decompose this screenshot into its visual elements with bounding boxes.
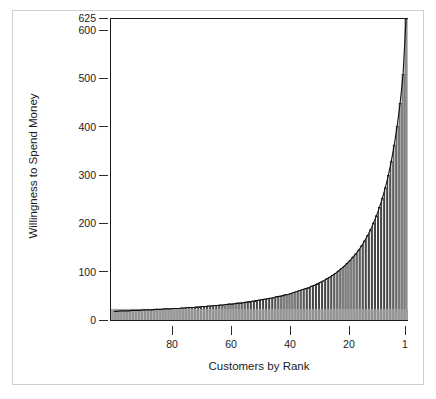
chart-figure: 0100200300400500600625 806040201 Custome… (0, 0, 436, 399)
x-tick-label: 80 (152, 338, 192, 350)
x-tick-mark (172, 326, 173, 335)
x-tick-label: 1 (385, 338, 425, 350)
x-tick-mark (290, 326, 291, 335)
x-tick-mark (405, 326, 406, 335)
x-tick-label: 40 (270, 338, 310, 350)
y-axis-title-wrap: Willingness to Spend Money (0, 0, 1, 1)
x-tick-label: 60 (211, 338, 251, 350)
x-axis-title: Customers by Rank (110, 360, 408, 372)
x-tick-mark (349, 326, 350, 335)
y-axis-title: Willingness to Spend Money (27, 41, 39, 291)
x-axis-ticks: 806040201 (0, 0, 436, 399)
x-tick-mark (231, 326, 232, 335)
x-tick-label: 20 (329, 338, 369, 350)
